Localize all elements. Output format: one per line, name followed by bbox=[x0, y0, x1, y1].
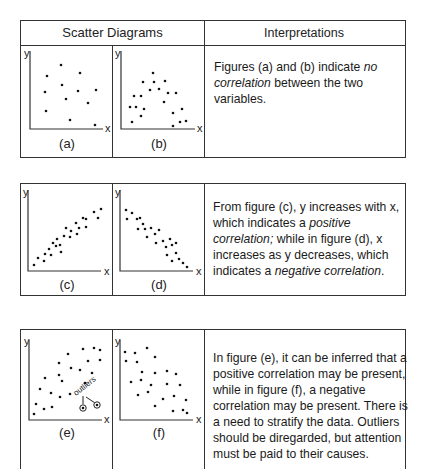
svg-text:y: y bbox=[115, 47, 121, 59]
header-interpretations: Interpretations bbox=[204, 26, 404, 40]
table-stratification: yx outliers (e) yx bbox=[20, 329, 406, 469]
caption-e: (e) bbox=[21, 425, 113, 440]
header-scatter-diagrams: Scatter Diagrams bbox=[21, 25, 204, 40]
caption-c: (c) bbox=[21, 277, 113, 292]
caption-d: (d) bbox=[113, 277, 205, 292]
caption-b: (b) bbox=[113, 136, 205, 151]
outliers-annotation: outliers bbox=[72, 375, 101, 412]
svg-text:x: x bbox=[196, 265, 202, 277]
svg-text:x: x bbox=[105, 122, 111, 134]
svg-text:x: x bbox=[196, 413, 202, 425]
caption-a: (a) bbox=[21, 136, 113, 151]
svg-text:outliers: outliers bbox=[72, 375, 98, 398]
svg-text:y: y bbox=[24, 47, 30, 59]
column-divider-interp bbox=[204, 330, 205, 469]
caption-f: (f) bbox=[113, 425, 205, 440]
table-positive-negative: yx (c) yx (d) bbox=[20, 183, 406, 296]
svg-text:x: x bbox=[197, 122, 203, 134]
interpretation-stratification: In figure (e), it can be inferred that a… bbox=[213, 350, 408, 462]
interpretation-positive-negative: From figure (c), y increases with x, whi… bbox=[213, 199, 405, 279]
interpretation-no-correlation: Figures (a) and (b) indicate nocorrelati… bbox=[214, 59, 399, 107]
svg-text:x: x bbox=[104, 265, 110, 277]
svg-text:x: x bbox=[104, 413, 110, 425]
table-no-correlation: Scatter Diagrams Interpretations yx (a) … bbox=[20, 20, 406, 158]
